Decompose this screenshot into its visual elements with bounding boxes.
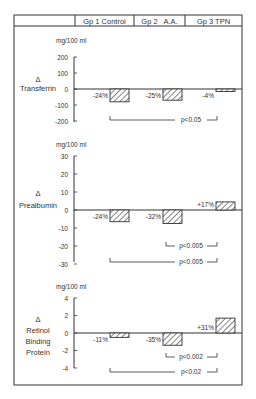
y-tick-label: 100 [57,70,68,77]
bar-2 [163,89,182,100]
y-tick-label: -4 [62,365,68,372]
y-tick-label: -10 [59,225,69,232]
y-tick-label: -100 [55,102,68,109]
figure: Gp 1 Control Gp 2 A.A. Gp 3 TPN mg/100 m… [0,0,256,399]
y-tick-label: 200 [57,54,68,61]
y-tick-label: 10 [61,189,69,196]
significance-label: p<0.002 [179,353,203,361]
bar-3 [216,202,235,210]
y-axis-label: Protein [26,348,50,357]
header-gp2: Gp 2 A.A. [141,17,177,26]
unit-label: mg/100 ml [56,141,87,149]
significance-label: p<0.005 [179,242,203,250]
y-axis-label: Prealbumin [19,201,57,210]
bar-value-label: -11% [93,336,108,343]
header-row: Gp 1 Control Gp 2 A.A. Gp 3 TPN [14,15,242,26]
bar-2 [163,333,182,345]
y-tick-label: 4 [64,295,68,302]
bar-2 [163,210,182,224]
bar-value-label: -32% [146,213,161,220]
bar-1 [110,333,129,337]
y-axis-label: Binding [25,337,50,346]
y-tick-label: 20 [61,171,69,178]
header-gp1: Gp 1 Control [83,17,126,26]
y-tick-label: -2 [62,347,68,354]
unit-label: mg/100 ml [56,283,87,291]
panel-2: mg/100 mlΔPrealbumin3020100-10-20-30-24%… [19,141,242,268]
bar-3 [216,318,235,333]
y-tick-label: 0 [64,330,68,337]
bar-value-label: -25% [146,92,161,99]
bar-3 [216,89,235,92]
panel-1: mg/100 mlΔTransferrin2001000-100-200-24%… [20,37,242,125]
bar-1 [110,89,129,102]
bar-value-label: -24% [93,92,108,99]
y-tick-label: -30 [59,261,69,268]
y-tick-label: 30 [61,153,69,160]
bar-value-label: -4% [202,92,214,99]
header-gp3: Gp 3 TPN [197,17,230,26]
y-axis-label: Δ [35,75,40,84]
y-tick-label: -200 [55,118,68,125]
y-axis-label: Δ [35,315,40,324]
y-tick-label: 0 [64,207,68,214]
bar-value-label: -24% [93,213,108,220]
bar-1 [110,210,129,222]
significance-label: p<0.005 [179,258,203,266]
panel-3: mg/100 mlΔRetinolBindingProtein420-2-4-1… [25,283,242,376]
significance-label: p<0.02 [181,368,201,376]
bar-value-label: +31% [197,324,214,331]
unit-label: mg/100 ml [56,37,87,45]
y-tick-label: 0 [64,86,68,93]
bar-value-label: +17% [197,201,214,208]
significance-label: p<0.05 [181,116,201,124]
y-axis-label: Transferrin [20,84,56,93]
y-tick-label: -20 [59,243,69,250]
bar-value-label: -35% [146,336,161,343]
y-tick-label: 2 [64,312,68,319]
y-axis-label: Δ [35,189,40,198]
y-axis-label: Retinol [26,326,50,335]
